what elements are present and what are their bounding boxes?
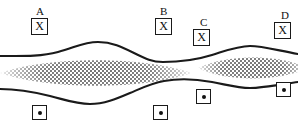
dot-icon — [159, 111, 163, 115]
x-marker-a[interactable]: X — [31, 18, 48, 35]
x-glyph: X — [159, 20, 168, 32]
dot-marker-c[interactable] — [196, 89, 211, 104]
lower-boundary-curve — [0, 79, 298, 104]
x-marker-c[interactable]: X — [193, 29, 210, 46]
region-label-c: C — [200, 17, 207, 28]
x-glyph: X — [278, 24, 287, 36]
x-glyph: X — [35, 20, 44, 32]
x-glyph: X — [197, 31, 206, 43]
dot-icon — [38, 111, 42, 115]
dot-icon — [282, 88, 286, 92]
dot-marker-a[interactable] — [32, 105, 47, 120]
dot-marker-d[interactable] — [276, 82, 291, 97]
x-marker-b[interactable]: X — [155, 18, 172, 35]
x-marker-d[interactable]: X — [274, 22, 291, 39]
region-label-a: A — [36, 6, 44, 17]
dot-icon — [202, 95, 206, 99]
region-label-b: B — [160, 6, 167, 17]
diagram-figure: ABCD XXXX — [0, 0, 298, 135]
dot-marker-b[interactable] — [153, 105, 168, 120]
region-label-d: D — [281, 10, 289, 21]
